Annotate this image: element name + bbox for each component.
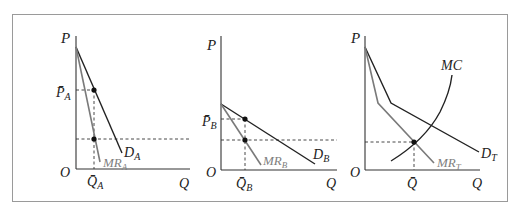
mr-mc-point-a: [91, 136, 96, 141]
qbar-label-b: Q̄B: [236, 176, 252, 193]
mr-curve-b: [221, 104, 261, 165]
price-point-a: [91, 87, 96, 92]
mr-label-b: MRB: [262, 153, 288, 170]
p-axis-label-a: P: [60, 30, 70, 46]
qbar-label-a: Q̄A: [87, 174, 104, 191]
price-point-b: [242, 116, 247, 121]
pbar-label-a: P̄A: [55, 85, 72, 102]
p-axis-label-b: P: [206, 37, 216, 53]
demand-label-a: DA: [123, 145, 141, 162]
mc-label: MC: [440, 58, 463, 73]
origin-label-a: O: [60, 165, 70, 180]
demand-curve-a: [76, 47, 122, 153]
pbar-label-b: P̄B: [201, 114, 217, 131]
panel-total-market: P O Q MC Q̄ DT MRT: [350, 30, 498, 191]
equilibrium-point-t: [411, 139, 416, 144]
mr-label-t: MRT: [436, 155, 462, 172]
q-axis-label-b: Q: [326, 176, 336, 191]
price-discrimination-diagram: P O Q P̄A Q̄A DA MRA P O Q P̄B Q̄B DB: [0, 0, 520, 210]
q-axis-label-a: Q: [179, 176, 189, 191]
origin-label-t: O: [350, 165, 360, 180]
mc-curve: [391, 75, 452, 161]
panel-market-a: P O Q P̄A Q̄A DA MRA: [55, 30, 190, 191]
mr-mc-point-b: [242, 137, 247, 142]
p-axis-label-t: P: [350, 30, 360, 46]
origin-label-b: O: [206, 165, 216, 180]
demand-label-b: DB: [312, 147, 329, 164]
panel-market-b: P O Q P̄B Q̄B DB MRB: [201, 36, 337, 193]
mr-curve-a: [76, 47, 100, 162]
qbar-label-t: Q̄: [407, 176, 417, 191]
demand-label-t: DT: [480, 146, 498, 163]
mr-curve-total: [365, 47, 434, 163]
q-axis-label-t: Q: [472, 176, 482, 191]
